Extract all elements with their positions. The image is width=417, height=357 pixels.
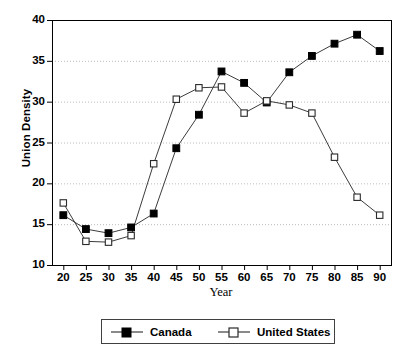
y-tick-label: 20 <box>19 177 45 189</box>
data-point-marker <box>83 238 89 244</box>
data-point-marker <box>354 194 360 200</box>
data-point-marker <box>377 212 383 218</box>
data-point-marker <box>173 145 180 152</box>
data-point-marker <box>218 84 224 90</box>
data-point-marker <box>151 161 157 167</box>
chart-legend: Canada United States <box>101 319 335 344</box>
gridlines <box>52 61 391 265</box>
y-axis-ticks <box>47 21 52 266</box>
y-tick-label: 25 <box>19 137 45 149</box>
data-point-marker <box>241 79 248 86</box>
data-point-marker <box>218 68 225 75</box>
data-point-marker <box>105 239 111 245</box>
plot-area <box>0 0 417 357</box>
data-point-marker <box>173 96 179 102</box>
data-point-marker <box>128 224 135 231</box>
chart-figure: Union Density Year 10152025303540 202530… <box>0 0 417 357</box>
data-point-marker <box>309 110 315 116</box>
series-lines <box>63 35 379 242</box>
data-point-marker <box>331 40 338 47</box>
series-markers <box>60 31 383 245</box>
data-point-marker <box>286 69 293 76</box>
series-line-united-states <box>63 87 379 242</box>
data-point-marker <box>354 31 361 38</box>
y-tick-label: 35 <box>19 55 45 67</box>
data-point-marker <box>241 110 247 116</box>
y-tick-label: 10 <box>19 259 45 271</box>
y-tick-label: 40 <box>19 14 45 26</box>
data-point-marker <box>60 200 66 206</box>
data-point-marker <box>150 210 157 217</box>
data-point-marker <box>286 102 292 108</box>
data-point-marker <box>196 111 203 118</box>
legend-item-canada: Canada <box>110 320 192 343</box>
data-point-marker <box>376 48 383 55</box>
data-point-marker <box>105 230 112 237</box>
legend-label-canada: Canada <box>150 326 192 338</box>
y-tick-label: 30 <box>19 96 45 108</box>
data-point-marker <box>196 85 202 91</box>
legend-label-united-states: United States <box>257 326 331 338</box>
data-point-marker <box>60 212 67 219</box>
filled-square-marker-icon <box>110 325 144 339</box>
data-point-marker <box>128 232 134 238</box>
data-point-marker <box>264 98 270 104</box>
legend-item-united-states: United States <box>217 320 331 343</box>
x-tick-label: 90 <box>366 272 394 284</box>
open-square-marker-icon <box>217 325 251 339</box>
y-tick-label: 15 <box>19 218 45 230</box>
data-point-marker <box>83 226 90 233</box>
data-point-marker <box>331 154 337 160</box>
data-point-marker <box>309 53 316 60</box>
series-line-canada <box>63 35 379 233</box>
